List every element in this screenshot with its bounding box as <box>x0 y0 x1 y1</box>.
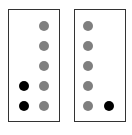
gray-dot <box>39 101 49 111</box>
gray-dot <box>39 81 49 91</box>
gray-dot <box>39 41 49 51</box>
gray-dot <box>83 81 93 91</box>
gray-dot <box>83 61 93 71</box>
black-dot <box>104 101 114 111</box>
gray-dot <box>83 41 93 51</box>
black-dot <box>19 81 29 91</box>
left-panel <box>8 9 60 122</box>
gray-dot <box>83 21 93 31</box>
gray-dot <box>83 101 93 111</box>
gray-dot <box>39 21 49 31</box>
gray-dot <box>39 61 49 71</box>
right-panel <box>74 9 126 122</box>
black-dot <box>19 101 29 111</box>
